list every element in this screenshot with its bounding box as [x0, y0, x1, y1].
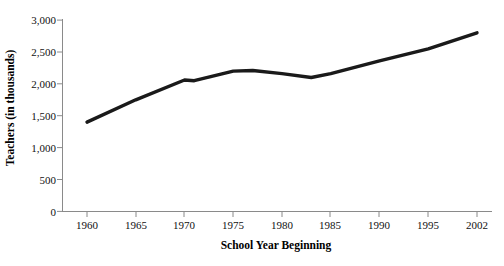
x-tick-label: 1995 — [417, 220, 439, 231]
y-tick-label: 1,500 — [16, 111, 56, 122]
x-tick-label: 1965 — [125, 220, 147, 231]
y-tick-label: 2,500 — [16, 47, 56, 58]
x-tick-label: 2002 — [466, 220, 488, 231]
y-tick-label: 0 — [16, 207, 56, 218]
x-tick-label: 1980 — [271, 220, 293, 231]
y-tick-label: 3,000 — [16, 15, 56, 26]
x-tick-label: 1990 — [368, 220, 390, 231]
x-axis-title: School Year Beginning — [221, 240, 332, 252]
line-chart-figure: 3,000 2,500 2,000 1,500 1,000 500 0 1960… — [0, 0, 504, 266]
y-axis-title: Teachers (in thousands) — [5, 49, 17, 166]
x-tick-label: 1970 — [173, 220, 195, 231]
x-tick-label: 1960 — [76, 220, 98, 231]
x-tick-label: 1985 — [319, 220, 341, 231]
y-tick-label: 1,000 — [16, 143, 56, 154]
x-tick-label: 1975 — [222, 220, 244, 231]
y-axis-title-wrap: Teachers (in thousands) — [2, 0, 20, 215]
y-tick-label: 2,000 — [16, 79, 56, 90]
y-tick-label: 500 — [16, 175, 56, 186]
